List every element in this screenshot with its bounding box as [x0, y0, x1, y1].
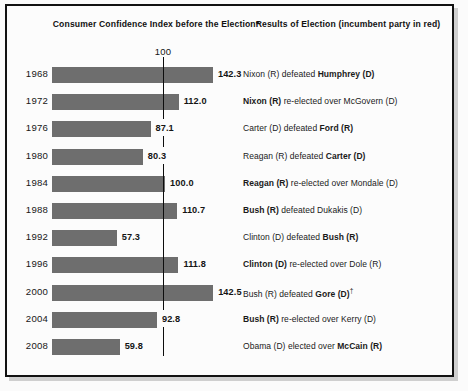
- election-result-text: Carter (D) defeated Ford (R): [243, 123, 458, 133]
- election-result-text: Clinton (D) re-elected over Dole (R): [243, 259, 458, 269]
- bar-value-label: 111.8: [183, 259, 205, 269]
- bar-value-label: 92.8: [162, 314, 180, 324]
- row-year-label: 1984: [0, 177, 48, 188]
- election-result-text: Bush (R) re-elected over Kerry (D): [243, 314, 458, 324]
- chart-row: 197687.1Carter (D) defeated Ford (R): [0, 116, 468, 143]
- row-year-label: 1968: [0, 68, 48, 79]
- reference-line-segment: [163, 164, 165, 310]
- chart-row: 199257.3Clinton (D) defeated Bush (R): [0, 225, 468, 252]
- bar: [52, 121, 151, 137]
- bar: [52, 203, 177, 219]
- bar-value-label: 112.0: [184, 96, 207, 106]
- chart-row: 1996111.8Clinton (D) re-elected over Dol…: [0, 252, 468, 279]
- chart-row: 1968142.3Nixon (R) defeated Humphrey (D): [0, 62, 468, 89]
- row-year-label: 2008: [0, 340, 48, 351]
- row-year-label: 1972: [0, 95, 48, 106]
- chart-row: 200492.8Bush (R) re-elected over Kerry (…: [0, 307, 468, 334]
- bar-value-label: 87.1: [156, 123, 174, 133]
- bar-value-label: 57.3: [122, 232, 140, 242]
- row-year-label: 1988: [0, 204, 48, 215]
- bar: [52, 285, 213, 301]
- bar: [52, 67, 213, 83]
- election-result-text: Bush (R) defeated Gore (D)†: [243, 287, 458, 299]
- election-result-text: Nixon (R) defeated Humphrey (D): [243, 69, 458, 79]
- row-year-label: 1976: [0, 122, 48, 133]
- election-result-text: Nixon (R) re-elected over McGovern (D): [243, 96, 458, 106]
- reference-line-segment: [163, 327, 165, 356]
- election-result-text: Obama (D) elected over McCain (R): [243, 341, 458, 351]
- bar: [52, 230, 117, 246]
- chart-row: 1972112.0Nixon (R) re-elected over McGov…: [0, 89, 468, 116]
- bar-value-label: 100.0: [170, 178, 194, 188]
- bar: [52, 257, 178, 273]
- election-result-text: Reagan (R) re-elected over Mondale (D): [243, 178, 458, 188]
- reference-line-segment: [163, 57, 165, 119]
- bar-value-label: 80.3: [148, 151, 166, 161]
- bar-value-label: 142.5: [218, 287, 242, 297]
- chart-plot-area: Consumer Confidence Index before the Ele…: [0, 0, 468, 391]
- row-year-label: 1980: [0, 150, 48, 161]
- chart-row: 200859.8Obama (D) elected over McCain (R…: [0, 334, 468, 361]
- figure-container: Consumer Confidence Index before the Ele…: [0, 0, 468, 391]
- bar-value-label: 59.8: [125, 341, 143, 351]
- row-year-label: 2004: [0, 313, 48, 324]
- bar: [52, 94, 179, 110]
- bar: [52, 339, 120, 355]
- row-year-label: 1996: [0, 258, 48, 269]
- election-result-text: Reagan (R) defeated Carter (D): [243, 151, 458, 161]
- row-year-label: 2000: [0, 286, 48, 297]
- row-year-label: 1992: [0, 231, 48, 242]
- chart-row: 1988110.7Bush (R) defeated Dukakis (D): [0, 198, 468, 225]
- reference-line-label: 100: [132, 46, 194, 57]
- column-header-consumer-confidence: Consumer Confidence Index before the Ele…: [46, 19, 266, 31]
- election-result-text: Bush (R) defeated Dukakis (D): [243, 205, 458, 215]
- chart-row: 198080.3Reagan (R) defeated Carter (D): [0, 144, 468, 171]
- column-header-election-results: Results of Election (incumbent party in …: [243, 19, 453, 31]
- bar: [52, 149, 143, 165]
- footnote-dagger-marker: †: [350, 287, 354, 294]
- chart-row: 2000142.5Bush (R) defeated Gore (D)†: [0, 280, 468, 307]
- bar-value-label: 110.7: [182, 205, 205, 215]
- reference-line-segment: [163, 136, 165, 146]
- bar: [52, 176, 165, 192]
- election-result-text: Clinton (D) defeated Bush (R): [243, 232, 458, 242]
- chart-row: 1984100.0Reagan (R) re-elected over Mond…: [0, 171, 468, 198]
- bar: [52, 312, 157, 328]
- bar-value-label: 142.3: [218, 69, 242, 79]
